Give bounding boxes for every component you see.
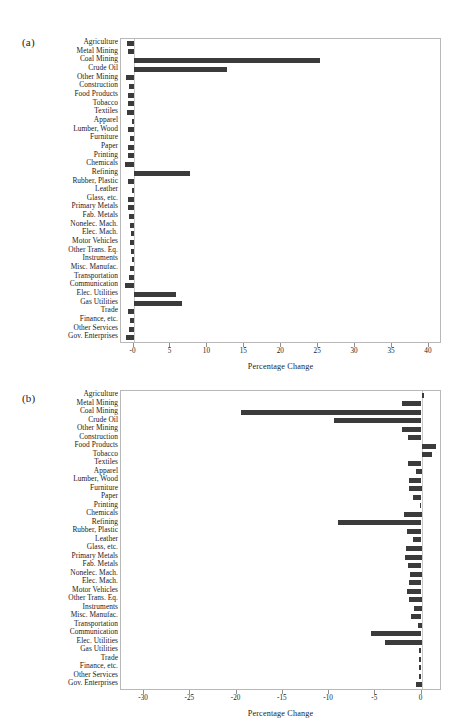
bar-row — [121, 74, 440, 83]
x-axis-tick-label: 35 — [387, 347, 394, 355]
bar-row — [121, 134, 440, 143]
bar — [134, 58, 320, 63]
bar — [409, 478, 422, 483]
x-axis-tick-label: 15 — [240, 347, 247, 355]
bar-row — [121, 536, 440, 545]
bar-row — [121, 510, 440, 519]
bar — [128, 205, 134, 210]
bar-row — [121, 169, 440, 178]
bar-row — [121, 655, 440, 664]
bar-row — [121, 56, 440, 65]
bar-row — [121, 400, 440, 409]
bar-row — [121, 195, 440, 204]
x-axis-tick-label: -15 — [277, 694, 287, 702]
bar-row — [121, 212, 440, 221]
bar — [385, 640, 422, 645]
bar — [404, 512, 422, 517]
bar-row — [121, 281, 440, 290]
bar — [419, 674, 422, 679]
bar — [132, 119, 133, 124]
bar — [126, 75, 133, 80]
bar — [422, 452, 432, 457]
x-axis-tick-label: -10 — [323, 694, 333, 702]
bar — [128, 127, 133, 132]
bar — [129, 214, 133, 219]
bar — [402, 427, 421, 432]
bar-row — [121, 143, 440, 152]
bar — [129, 275, 133, 280]
bar-row — [121, 273, 440, 282]
bar-row — [121, 459, 440, 468]
bar — [129, 84, 133, 89]
bar — [130, 318, 134, 323]
x-axis-tick-label: 10 — [203, 347, 210, 355]
bar — [410, 572, 421, 577]
x-axis-tick-label: 20 — [277, 347, 284, 355]
x-axis-tick-label: -20 — [231, 694, 241, 702]
bar-row — [121, 221, 440, 230]
bar-row — [121, 476, 440, 485]
bar-row — [121, 229, 440, 238]
bar-row — [121, 646, 440, 655]
bar — [128, 93, 133, 98]
bar — [409, 597, 421, 602]
x-axis-tick-label: 0 — [419, 694, 423, 702]
panel-b-x-axis-title: Percentage Change — [120, 709, 441, 718]
bar-row — [121, 680, 440, 689]
bar-row — [121, 391, 440, 400]
bar-row — [121, 100, 440, 109]
bar — [338, 520, 421, 525]
bar — [128, 179, 134, 184]
bar-row — [121, 425, 440, 434]
bar-row — [121, 299, 440, 308]
panel-a: (a) AgricultureMetal MiningCoal MiningCr… — [0, 22, 471, 372]
bar-row — [121, 621, 440, 630]
bar — [418, 623, 421, 628]
bar — [416, 682, 422, 687]
category-label: Gov. Enterprises — [18, 332, 118, 341]
figure-container: (a) AgricultureMetal MiningCoal MiningCr… — [0, 0, 471, 723]
bar — [128, 309, 134, 314]
bar — [131, 249, 133, 254]
bar-row — [121, 493, 440, 502]
bar-row — [121, 48, 440, 57]
bar-row — [121, 178, 440, 187]
bar — [134, 171, 190, 176]
panel-a-plot-area — [120, 38, 441, 343]
panel-b-category-labels: AgricultureMetal MiningCoal MiningCrude … — [18, 390, 118, 688]
panel-a-category-labels: AgricultureMetal MiningCoal MiningCrude … — [18, 38, 118, 341]
bar — [132, 188, 133, 193]
x-axis-tick-label: 25 — [314, 347, 321, 355]
bar — [422, 393, 424, 398]
bar — [413, 537, 421, 542]
category-label: Gov. Enterprises — [18, 679, 118, 688]
bar-row — [121, 408, 440, 417]
bar-row — [121, 108, 440, 117]
bar-row — [121, 468, 440, 477]
bar — [128, 197, 133, 202]
x-axis-tick-label: -0 — [130, 347, 136, 355]
bar — [129, 327, 133, 332]
bar — [126, 335, 133, 340]
bar — [413, 495, 421, 500]
bar — [414, 606, 421, 611]
bar-row — [121, 333, 440, 342]
bar-row — [121, 595, 440, 604]
bar-row — [121, 629, 440, 638]
bar-row — [121, 663, 440, 672]
bar-row — [121, 82, 440, 91]
bar — [241, 410, 421, 415]
bar — [128, 49, 134, 54]
bar — [408, 461, 422, 466]
bar — [134, 292, 177, 297]
bar-row — [121, 117, 440, 126]
x-axis-tick-label: 40 — [424, 347, 431, 355]
bar-row — [121, 638, 440, 647]
bar — [416, 469, 422, 474]
bar — [371, 631, 422, 636]
bar — [405, 555, 422, 560]
x-axis-tick-label: -5 — [371, 694, 377, 702]
bar — [409, 580, 422, 585]
bar — [128, 145, 134, 150]
panel-b-plot-area — [120, 390, 441, 690]
